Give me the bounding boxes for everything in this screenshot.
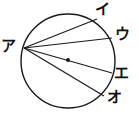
center-point-dot (66, 58, 70, 62)
label-o: オ (107, 90, 122, 105)
label-e: エ (114, 66, 129, 81)
circle-chords-figure: ア イ ウ エ オ (0, 0, 139, 116)
label-u: ウ (115, 27, 130, 42)
label-i: イ (95, 2, 110, 17)
chord-a-o (24, 48, 104, 96)
label-a: ア (1, 39, 16, 54)
